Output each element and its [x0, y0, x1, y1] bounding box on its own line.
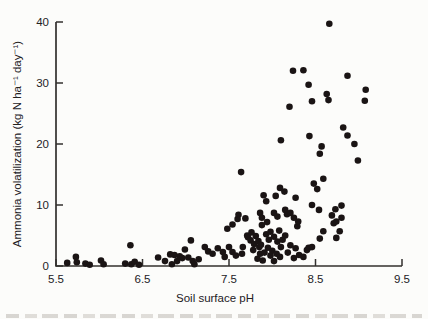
data-point: [309, 244, 316, 251]
data-point: [195, 256, 202, 263]
cropped-caption-fragment: [6, 314, 422, 318]
data-point: [314, 186, 321, 193]
data-point: [318, 143, 325, 150]
data-point: [122, 260, 129, 267]
data-point: [311, 180, 318, 187]
data-point: [351, 141, 358, 148]
y-tick-label: 30: [36, 77, 49, 89]
data-point: [344, 132, 351, 139]
data-point: [277, 254, 284, 261]
data-point: [305, 82, 312, 89]
data-point: [238, 169, 245, 176]
data-point: [290, 68, 297, 75]
data-point: [326, 21, 333, 28]
data-point: [239, 251, 246, 258]
data-point: [136, 262, 143, 269]
data-point: [329, 212, 336, 219]
data-point: [250, 247, 257, 254]
data-point: [323, 91, 330, 98]
data-point: [74, 259, 81, 266]
data-point: [306, 133, 313, 140]
data-point: [162, 258, 169, 265]
data-point: [258, 241, 265, 248]
data-point: [242, 215, 249, 222]
y-tick-label: 40: [36, 16, 49, 28]
data-point: [325, 97, 332, 104]
data-point: [285, 249, 292, 256]
data-point: [278, 137, 285, 144]
data-point: [282, 232, 289, 239]
data-point: [336, 228, 343, 235]
x-tick-label: 8.5: [308, 273, 324, 285]
x-tick-label: 7.5: [221, 273, 237, 285]
data-point: [221, 254, 228, 261]
data-point: [264, 219, 271, 226]
x-axis-title: Soil surface pH: [176, 292, 254, 304]
data-point: [259, 257, 266, 264]
data-point: [295, 218, 302, 225]
plot-canvas: 0102030405.56.57.58.59.5: [0, 0, 428, 319]
data-point: [127, 242, 134, 249]
data-point: [332, 206, 339, 213]
data-point: [316, 207, 323, 214]
data-point: [64, 260, 71, 267]
y-tick-label: 20: [36, 138, 49, 150]
data-point: [355, 157, 362, 164]
y-tick-label: 0: [43, 260, 49, 272]
data-point: [276, 227, 283, 234]
data-point: [309, 202, 316, 209]
data-point: [340, 124, 347, 131]
data-point: [274, 213, 281, 220]
data-point: [362, 86, 369, 93]
data-point: [278, 244, 285, 251]
data-point: [292, 245, 299, 252]
data-point: [309, 98, 316, 105]
data-point: [233, 252, 240, 259]
data-point: [272, 193, 279, 200]
data-point: [338, 215, 345, 222]
data-point: [344, 72, 351, 79]
x-tick-label: 5.5: [48, 273, 64, 285]
data-point: [317, 151, 324, 158]
data-point: [179, 255, 186, 262]
data-point: [362, 97, 369, 104]
data-point: [333, 235, 340, 242]
data-point: [300, 254, 307, 261]
data-point: [320, 176, 327, 183]
data-point: [263, 198, 270, 205]
data-point: [209, 251, 216, 258]
y-axis-title: Ammonia volatilization (kg N ha⁻¹ day⁻¹): [10, 41, 24, 247]
data-point: [317, 235, 324, 242]
data-point: [286, 104, 293, 111]
data-point: [240, 244, 247, 251]
data-point: [260, 192, 267, 199]
data-point: [86, 262, 93, 269]
data-point: [320, 228, 327, 235]
data-point: [300, 67, 307, 74]
data-point: [338, 202, 345, 209]
data-point: [229, 221, 236, 228]
data-point: [188, 237, 195, 244]
data-point: [271, 258, 278, 265]
data-point: [281, 188, 288, 195]
data-point: [292, 194, 299, 201]
data-point: [182, 246, 189, 253]
data-point: [259, 215, 266, 222]
y-tick-label: 10: [36, 199, 49, 211]
data-point: [235, 212, 242, 219]
data-point: [224, 226, 231, 233]
x-tick-label: 9.5: [394, 273, 410, 285]
data-point: [100, 261, 107, 268]
x-tick-label: 6.5: [135, 273, 151, 285]
scatter-figure: 0102030405.56.57.58.59.5 Ammonia volatil…: [0, 0, 428, 319]
data-point: [155, 254, 162, 261]
